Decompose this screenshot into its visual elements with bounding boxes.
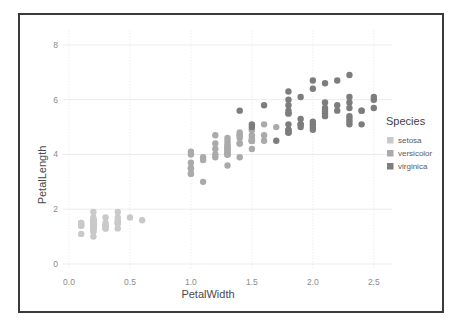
vertical-gridlines	[69, 30, 374, 269]
data-point	[285, 102, 291, 108]
series-versicolor	[188, 121, 292, 185]
data-point	[261, 132, 267, 138]
data-point	[115, 225, 121, 231]
legend-items: setosaversicolorvirginica	[387, 136, 433, 171]
data-point	[90, 209, 96, 215]
data-point	[188, 165, 194, 171]
data-point	[358, 107, 364, 113]
legend-label-setosa: setosa	[398, 136, 422, 145]
legend-label-virginica: virginica	[398, 162, 428, 171]
data-point	[212, 146, 218, 152]
screenshot-root: 02468 0.00.51.01.52.02.5 PetalLength Pet…	[0, 0, 461, 331]
data-point	[115, 209, 121, 215]
data-point	[212, 132, 218, 138]
legend-swatch-setosa	[387, 137, 394, 144]
x-tick-label: 0.5	[124, 277, 136, 287]
data-point	[346, 94, 352, 100]
data-point	[297, 116, 303, 122]
scatter-chart: 02468 0.00.51.01.52.02.5 PetalLength Pet…	[20, 15, 446, 315]
data-point	[285, 121, 291, 127]
data-point	[346, 118, 352, 124]
data-point	[188, 149, 194, 155]
data-point	[358, 121, 364, 127]
data-point	[346, 105, 352, 111]
data-point	[212, 151, 218, 157]
data-point	[346, 72, 352, 78]
data-point	[224, 149, 230, 155]
data-point	[310, 77, 316, 83]
data-point	[200, 157, 206, 163]
data-point	[127, 214, 133, 220]
data-point	[102, 222, 108, 228]
x-tick-label: 1.0	[185, 277, 197, 287]
data-point	[322, 113, 328, 119]
data-point	[236, 107, 242, 113]
data-point	[200, 179, 206, 185]
legend-label-versicolor: versicolor	[398, 149, 433, 158]
series-virginica	[236, 72, 377, 144]
data-point	[249, 138, 255, 144]
x-tick-label: 0.0	[63, 277, 75, 287]
data-point	[188, 170, 194, 176]
y-tick-label: 4	[53, 149, 58, 159]
data-point	[346, 99, 352, 105]
legend-swatch-versicolor	[387, 150, 394, 157]
data-point	[261, 102, 267, 108]
legend: Species setosaversicolorvirginica	[386, 115, 433, 171]
data-point	[334, 102, 340, 108]
data-point	[371, 105, 377, 111]
data-point	[236, 129, 242, 135]
data-point	[139, 217, 145, 223]
data-point	[224, 162, 230, 168]
data-point	[285, 97, 291, 103]
data-point	[297, 124, 303, 130]
data-point	[285, 129, 291, 135]
data-point	[188, 159, 194, 165]
data-point	[236, 154, 242, 160]
x-axis-tick-labels: 0.00.51.01.52.02.5	[63, 277, 380, 287]
data-point	[297, 94, 303, 100]
data-point	[322, 99, 328, 105]
figure-frame: 02468 0.00.51.01.52.02.5 PetalLength Pet…	[18, 13, 444, 313]
y-tick-label: 2	[53, 204, 58, 214]
data-point	[212, 140, 218, 146]
data-point	[224, 143, 230, 149]
data-point	[322, 80, 328, 86]
data-point	[261, 121, 267, 127]
data-point	[249, 132, 255, 138]
data-point	[310, 127, 316, 133]
data-point	[334, 77, 340, 83]
series-setosa	[78, 209, 145, 240]
x-tick-label: 1.5	[246, 277, 258, 287]
data-point	[371, 94, 377, 100]
data-point	[78, 222, 84, 228]
y-axis-title: PetalLength	[36, 146, 48, 205]
x-tick-label: 2.5	[368, 277, 380, 287]
data-point	[236, 140, 242, 146]
legend-title: Species	[386, 115, 426, 127]
data-point	[90, 233, 96, 239]
data-point	[90, 222, 96, 228]
x-tick-label: 2.0	[307, 277, 319, 287]
data-point	[261, 138, 267, 144]
y-tick-label: 6	[53, 95, 58, 105]
data-point	[285, 88, 291, 94]
data-point	[236, 135, 242, 141]
legend-swatch-virginica	[387, 163, 394, 170]
data-point	[273, 124, 279, 130]
data-point	[273, 138, 279, 144]
data-point	[249, 121, 255, 127]
data-point	[285, 110, 291, 116]
data-point	[78, 231, 84, 237]
data-point	[346, 113, 352, 119]
y-tick-label: 8	[53, 40, 58, 50]
data-point	[102, 214, 108, 220]
data-point	[310, 86, 316, 92]
x-axis-title: PetalWidth	[181, 288, 234, 300]
data-point	[310, 118, 316, 124]
data-point	[224, 135, 230, 141]
y-axis-tick-labels: 02468	[53, 40, 58, 269]
data-points-layer	[78, 72, 377, 240]
data-point	[249, 146, 255, 152]
y-tick-label: 0	[53, 259, 58, 269]
